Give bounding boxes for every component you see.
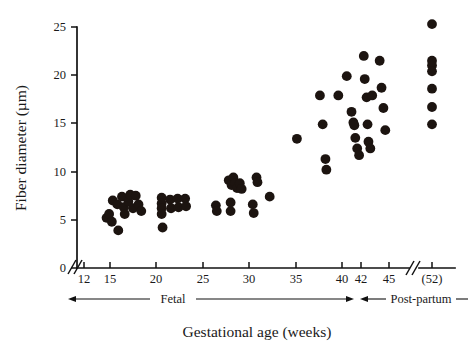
x-tick-label-30: 30 [243,272,256,286]
x-tick-label-35: 35 [290,272,303,286]
data-point [158,223,168,233]
data-point [380,125,390,135]
data-point [253,177,263,187]
y-tick-label-0: 0 [60,261,66,275]
data-point [318,119,328,129]
data-point [427,102,437,112]
data-point [365,144,375,154]
x-tick-label-20: 20 [150,272,163,286]
data-point [375,56,385,66]
post-partum-range-annotation: Post-partum [360,292,468,306]
x-tick-label-25: 25 [197,272,210,286]
data-point [212,206,222,216]
data-point [349,120,359,130]
data-point [181,201,191,211]
y-tick-label-25: 25 [54,20,67,34]
x-axis-ticks [84,262,432,268]
data-point [131,191,141,201]
x-tick-label-42: 42 [355,272,368,286]
data-point [113,226,123,236]
y-tick-label-20: 20 [54,68,67,82]
data-point [350,133,360,143]
data-point [120,209,130,219]
data-point [292,134,302,144]
scatter-chart-figure: 0 5 10 15 20 25 12 15 20 25 30 35 40 42 … [0,0,470,352]
fetal-label: Fetal [161,292,187,306]
y-axis-ticks [71,27,77,268]
data-point [367,91,377,101]
data-point [237,184,247,194]
data-point [107,217,117,227]
data-point [136,206,146,216]
x-tick-label-15: 15 [104,272,117,286]
data-point [265,192,275,202]
data-points-layer [102,19,437,235]
data-point [321,154,331,164]
data-point [359,51,369,61]
data-point [333,91,343,101]
x-tick-label-45: 45 [383,272,396,286]
data-point [427,66,437,76]
data-point [347,107,357,117]
data-point [354,150,364,160]
x-tick-label-12: 12 [78,272,91,286]
data-point [342,71,352,81]
data-point [377,83,387,93]
fetal-range-annotation: Fetal [68,292,354,306]
y-tick-label-15: 15 [54,116,67,130]
x-tick-label-52: (52) [422,272,443,286]
data-point [427,84,437,94]
data-point [157,209,167,219]
data-point [226,198,236,208]
data-point [226,206,236,216]
data-point [360,74,370,84]
data-point [248,199,258,209]
post-partum-label: Post-partum [390,292,451,306]
y-tick-label-5: 5 [60,213,66,227]
y-tick-label-10: 10 [54,165,67,179]
data-point [321,165,331,175]
data-point [427,19,437,29]
data-point [315,91,325,101]
data-point [427,119,437,129]
data-point [379,103,389,113]
x-axis-title: Gestational age (weeks) [183,323,332,341]
plot-canvas: 0 5 10 15 20 25 12 15 20 25 30 35 40 42 … [0,0,470,352]
y-axis-title: Fiber diameter (µm) [12,85,30,211]
x-tick-label-40: 40 [336,272,349,286]
data-point [249,208,259,218]
data-point [363,119,373,129]
